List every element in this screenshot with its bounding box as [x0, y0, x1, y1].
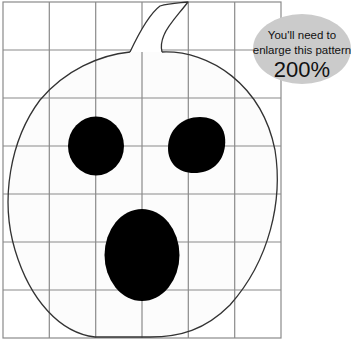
left-eye	[68, 117, 124, 176]
callout-line-1: You'll need to	[268, 29, 336, 41]
enlarge-callout: You'll need to enlarge this pattern 200%	[253, 14, 351, 84]
mouth	[105, 209, 180, 301]
pumpkin-pattern-canvas: You'll need to enlarge this pattern 200%	[0, 0, 351, 346]
callout-percentage: 200%	[274, 57, 330, 82]
callout-line-2: enlarge this pattern	[253, 44, 351, 56]
pumpkin-stem	[130, 2, 188, 52]
